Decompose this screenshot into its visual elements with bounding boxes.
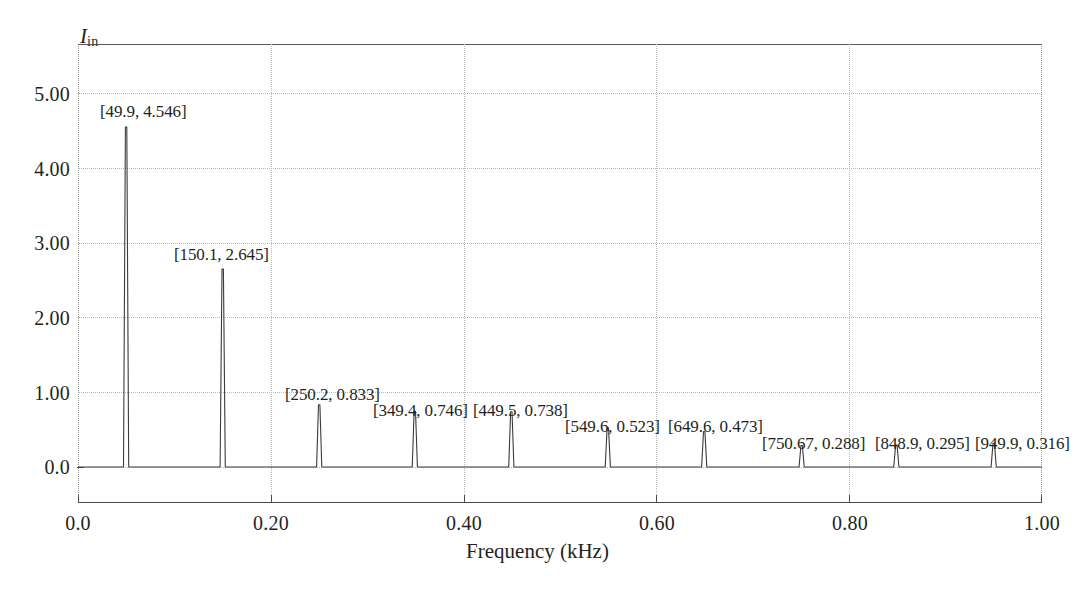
peak-annotation-8: [750.67, 0.288] [762, 434, 865, 454]
x-tick-label-1p00: 1.00 [1002, 512, 1075, 535]
plot-area: [49.9, 4.546] [150.1, 2.645] [250.2, 0.8… [78, 44, 1042, 503]
peak-annotation-7: [649.6, 0.473] [668, 417, 763, 437]
y-tick-label-0: 0.0 [8, 456, 70, 479]
x-tick-label-0p40: 0.40 [424, 512, 504, 535]
y-tick-label-4: 4.00 [8, 158, 70, 181]
harmonic-spectrum-figure: Iin 5.00 4.00 3.00 2.00 1.00 0.0 0.0 0.2… [0, 0, 1075, 589]
peak-annotation-3: [250.2, 0.833] [285, 385, 380, 405]
x-tick-label-0p20: 0.20 [231, 512, 311, 535]
x-tick-label-0p80: 0.80 [810, 512, 890, 535]
peak-annotation-4: [349.4, 0.746] [373, 401, 468, 421]
peak-annotation-10: [949.9, 0.316] [975, 434, 1070, 454]
x-tick-label-0p60: 0.60 [617, 512, 697, 535]
peak-annotation-5: [449.5, 0.738] [473, 401, 568, 421]
y-tick-label-5: 5.00 [8, 83, 70, 106]
y-tick-label-2: 2.00 [8, 307, 70, 330]
peak-annotation-9: [848.9, 0.295] [875, 434, 970, 454]
y-tick-label-3: 3.00 [8, 232, 70, 255]
peak-annotation-6: [549.6, 0.523] [565, 417, 660, 437]
peak-annotation-1: [49.9, 4.546] [100, 102, 187, 122]
peak-annotation-2: [150.1, 2.645] [174, 245, 269, 265]
x-tick-label-0: 0.0 [38, 512, 118, 535]
x-axis-title: Frequency (kHz) [0, 539, 1075, 564]
y-tick-label-1: 1.00 [8, 382, 70, 405]
